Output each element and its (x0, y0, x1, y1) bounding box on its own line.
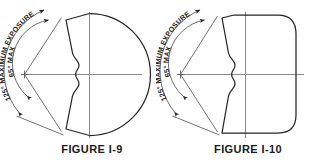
drawing-sheet: 125° MAXIMUM EXPOSURE 65° MAX FIGURE I-9 (0, 0, 312, 166)
leader-line-lower (25, 75, 62, 132)
leader-line-lower (181, 75, 218, 133)
outer-arc-extension (17, 116, 64, 135)
figure-panel-i-9: 125° MAXIMUM EXPOSURE 65° MAX FIGURE I-9 (0, 0, 156, 166)
leader-line-upper (181, 16, 218, 75)
figure-i-9-drawing: 125° MAXIMUM EXPOSURE 65° MAX (0, 0, 156, 142)
figure-i-10-drawing: 125° MAXIMUM EXPOSURE 65° MAX (156, 0, 312, 142)
figure-panel-i-10: 125° MAXIMUM EXPOSURE 65° MAX FIGURE I-1… (156, 0, 312, 166)
outer-angle-label: 125° MAXIMUM EXPOSURE (156, 10, 192, 102)
figure-caption-i-10: FIGURE I-10 (156, 143, 312, 155)
leader-line-upper (25, 18, 62, 75)
outer-arc-extension (173, 116, 220, 135)
outer-angle-label: 125° MAXIMUM EXPOSURE (0, 10, 36, 102)
figure-caption-i-9: FIGURE I-9 (0, 143, 170, 155)
